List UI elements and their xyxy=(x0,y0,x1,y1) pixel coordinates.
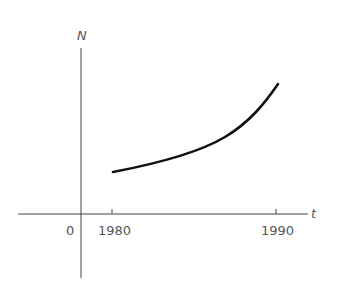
chart-canvas: N t 0 1980 1990 xyxy=(0,0,338,292)
chart: N t 0 1980 1990 xyxy=(0,0,338,292)
y-axis-label: N xyxy=(77,28,87,43)
x-tick-label-1990: 1990 xyxy=(261,223,294,238)
x-axis-label: t xyxy=(311,206,317,221)
origin-label: 0 xyxy=(66,223,74,238)
growth-curve xyxy=(113,84,278,172)
x-tick-label-1980: 1980 xyxy=(98,223,131,238)
